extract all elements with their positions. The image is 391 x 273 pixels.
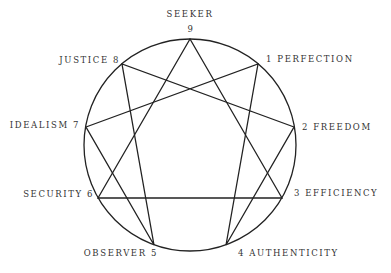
enneagram-circle	[84, 39, 296, 251]
label-security: SECURITY 6	[23, 189, 94, 199]
label-idealism: IDEALISM 7	[10, 120, 80, 130]
hexad-figure	[86, 64, 294, 245]
label-efficiency: 3 EFFICIENCY	[294, 188, 378, 198]
label-freedom: 2 FREEDOM	[302, 122, 372, 132]
enneagram-diagram: SEEKER 9 1 PERFECTION 2 FREEDOM 3 EFFICI…	[0, 0, 391, 273]
label-justice: JUSTICE 8	[58, 55, 120, 65]
label-seeker-number: 9	[187, 24, 194, 34]
label-perfection: 1 PERFECTION	[266, 54, 354, 64]
label-observer: OBSERVER 5	[84, 248, 158, 258]
label-seeker: SEEKER	[167, 9, 214, 19]
inner-triangle	[98, 39, 282, 198]
label-authenticity: 4 AUTHENTICITY	[238, 248, 339, 258]
